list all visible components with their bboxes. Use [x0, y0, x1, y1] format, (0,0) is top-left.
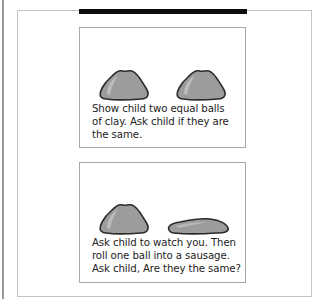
caption-line: Ask child to watch you. Then [92, 236, 242, 249]
caption-line: the same. [92, 128, 242, 141]
step-caption: Ask child to watch you. Then roll one ba… [92, 236, 242, 275]
header-bar [79, 9, 247, 14]
caption-line: Show child two equal balls [92, 102, 242, 115]
clay-ball-icon [98, 202, 150, 235]
clay-ball-icon [98, 68, 150, 101]
step-caption: Show child two equal balls of clay. Ask … [92, 102, 242, 141]
caption-line: of clay. Ask child if they are [92, 115, 242, 128]
clay-sausage-icon [166, 215, 230, 235]
caption-line: roll one ball into a sausage. [92, 249, 242, 262]
caption-line: Ask child, Are they the same? [92, 262, 242, 275]
page-edge-rule [2, 0, 4, 299]
step-card-1: Show child two equal balls of clay. Ask … [79, 27, 246, 148]
clay-ball-icon [175, 68, 227, 101]
step-card-2: Ask child to watch you. Then roll one ba… [79, 162, 246, 283]
